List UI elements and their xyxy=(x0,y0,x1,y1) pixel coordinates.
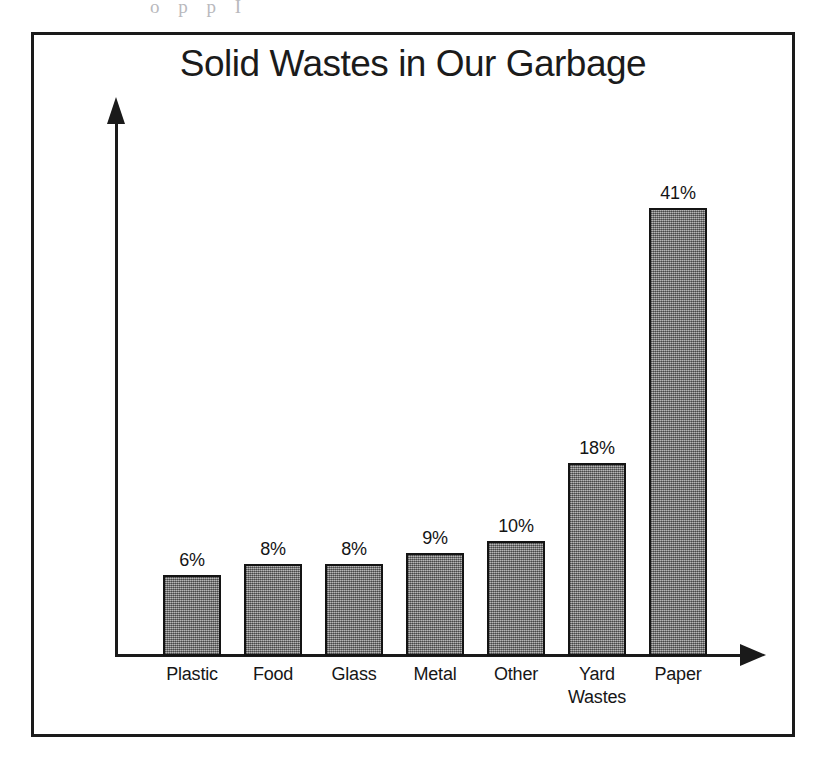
x-axis-category-label-line: Metal xyxy=(393,663,477,686)
bars-layer: 6%Plastic8%Food8%Glass9%Metal10%Other18%… xyxy=(34,35,792,734)
bar-value-label: 8% xyxy=(244,539,302,560)
x-axis-category-label-line: Other xyxy=(474,663,558,686)
bar xyxy=(406,553,464,656)
bar xyxy=(649,208,707,656)
x-axis-category-label: Paper xyxy=(636,663,720,686)
x-axis-category-label-line: Food xyxy=(231,663,315,686)
bar-value-label: 6% xyxy=(163,550,221,571)
bar xyxy=(568,463,626,656)
x-axis-category-label: Plastic xyxy=(150,663,234,686)
scan-artifact-text: o p p I xyxy=(0,0,825,26)
bar xyxy=(487,541,545,656)
bar-value-label: 18% xyxy=(568,438,626,459)
bar-value-label: 41% xyxy=(649,183,707,204)
bar xyxy=(163,575,221,656)
x-axis-category-label-line: Yard xyxy=(555,663,639,686)
x-axis-category-label: Glass xyxy=(312,663,396,686)
bar xyxy=(244,564,302,656)
x-axis-category-label-line: Wastes xyxy=(555,686,639,709)
bar xyxy=(325,564,383,656)
figure-frame: Solid Wastes in Our Garbage 6%Plastic8%F… xyxy=(31,32,795,737)
x-axis-category-label: Other xyxy=(474,663,558,686)
x-axis-category-label-line: Paper xyxy=(636,663,720,686)
bar-value-label: 8% xyxy=(325,539,383,560)
bar-value-label: 10% xyxy=(487,516,545,537)
bar-value-label: 9% xyxy=(406,528,464,549)
x-axis-category-label-line: Glass xyxy=(312,663,396,686)
x-axis-category-label: YardWastes xyxy=(555,663,639,709)
x-axis-category-label-line: Plastic xyxy=(150,663,234,686)
x-axis-category-label: Metal xyxy=(393,663,477,686)
plot-area: 6%Plastic8%Food8%Glass9%Metal10%Other18%… xyxy=(34,35,792,734)
x-axis-category-label: Food xyxy=(231,663,315,686)
